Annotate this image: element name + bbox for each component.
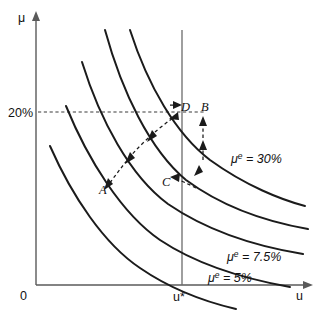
y-tick-label-20-percent: 20%	[8, 106, 33, 120]
adjustment-arrowhead-c1	[170, 173, 180, 182]
point-label-d: D	[180, 100, 190, 114]
curve-label-mu-e-30: μe = 30%	[230, 151, 282, 166]
curve-label-mu-e-5-base: μ	[207, 271, 215, 285]
curve-label-mu-e-30-base: μ	[230, 152, 238, 166]
phillips-curve-svg: μ u 0 u* 20% A B C D μe = 30% μe = 7.5% …	[0, 0, 316, 314]
adjustment-arrowhead-b1	[199, 116, 207, 126]
curve-label-mu-e-5: μe = 5%	[207, 270, 252, 285]
point-label-b: B	[201, 100, 209, 114]
phillips-curve-through-c	[105, 30, 308, 229]
phillips-curves-group	[50, 30, 308, 309]
phillips-curve-mu-e-30	[130, 30, 305, 206]
y-axis-arrowhead	[32, 11, 40, 21]
curve-label-mu-e-5-rest: = 5%	[220, 271, 252, 285]
svg-text:μe = 30%: μe = 30%	[230, 151, 282, 166]
adjustment-arrowhead-c2	[194, 165, 203, 176]
u-star-label: u*	[173, 290, 185, 304]
phillips-curve-figure: μ u 0 u* 20% A B C D μe = 30% μe = 7.5% …	[0, 0, 316, 314]
point-label-a: A	[98, 183, 107, 197]
x-axis-label: u	[296, 289, 303, 303]
origin-label: 0	[20, 289, 27, 303]
y-axis-label: μ	[18, 11, 25, 25]
curve-label-mu-e-30-rest: = 30%	[243, 152, 282, 166]
x-axis-arrowhead	[303, 281, 313, 289]
curve-label-mu-e-7-5-base: μ	[226, 250, 234, 264]
curve-label-mu-e-7-5-rest: = 7.5%	[239, 250, 282, 264]
svg-text:μe = 7.5%: μe = 7.5%	[226, 249, 281, 264]
curve-label-mu-e-7-5: μe = 7.5%	[226, 249, 281, 264]
point-label-c: C	[162, 175, 171, 189]
svg-text:μe = 5%: μe = 5%	[207, 270, 252, 285]
adjustment-arrowhead-b2	[199, 140, 207, 150]
